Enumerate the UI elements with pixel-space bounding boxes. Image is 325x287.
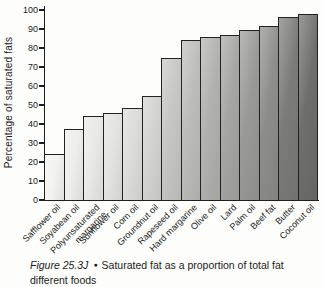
caption-figure-number: Figure 25.3J [30, 259, 88, 271]
figure-25-3j: Percentage of saturated fats 01020304050… [0, 0, 325, 287]
bar-groundnut-oil [142, 96, 163, 201]
y-tick-label: 0 [8, 194, 38, 206]
bar-sunflower-oil [103, 113, 124, 200]
bar-soyabean-oil [64, 129, 85, 200]
y-tick-label: 90 [8, 23, 38, 35]
y-tick-label: 40 [8, 118, 38, 130]
y-tick-label: 50 [8, 99, 38, 111]
bar-coconut-oil [298, 14, 319, 200]
caption-text-line1: Saturated fat as a proportion of total f… [102, 259, 284, 271]
bar-rapeseed-oil [161, 58, 182, 200]
caption-bullet-icon: ● [93, 261, 97, 268]
y-tick-label: 30 [8, 137, 38, 149]
bar-corn-oil [122, 108, 143, 200]
y-tick-label: 100 [8, 4, 38, 16]
bar-beef-fat [259, 26, 280, 200]
bar-polyunsaturated-margarine [83, 116, 104, 200]
bars-area [44, 10, 318, 200]
y-tick-label: 80 [8, 42, 38, 54]
bar-safflower-oil [44, 154, 65, 200]
y-tick-label: 70 [8, 61, 38, 73]
x-axis-line [44, 200, 319, 202]
bar-lard [220, 35, 241, 200]
y-tick-label: 60 [8, 80, 38, 92]
bar-palm-oil [239, 30, 260, 200]
bar-hard-margarine [181, 40, 202, 200]
y-tick-label: 20 [8, 156, 38, 168]
figure-caption: Figure 25.3J●Saturated fat as a proporti… [30, 257, 322, 287]
bar-butter [278, 17, 299, 200]
y-tick-label: 10 [8, 175, 38, 187]
bar-olive-oil [200, 37, 221, 200]
caption-text-line2: different foods [30, 273, 322, 287]
